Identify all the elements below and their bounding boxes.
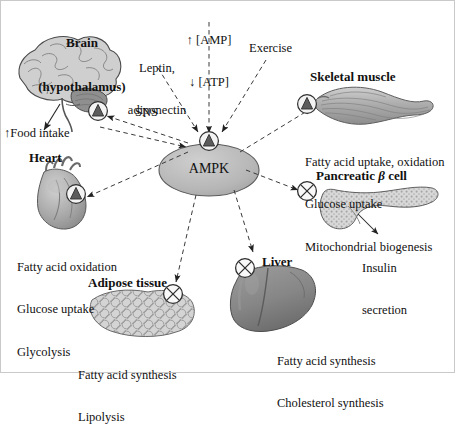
ampk-label: AMPK [179,161,239,177]
heart-title: Heart [29,151,61,166]
muscle-activation-symbol [298,95,317,114]
heart-activation-symbol [67,185,86,204]
exercise-label: Exercise [249,41,292,55]
food-intake-label: ↑Food intake [4,126,70,140]
edge-ampk-to-liver [234,190,253,252]
edge-ampk-to-adipose [176,195,196,282]
liver-effects: Fatty acid synthesis Cholesterol synthes… [277,325,384,425]
sns-label: SNS [135,105,158,119]
liver-inhibition-symbol [236,259,255,278]
skeletal-muscle-illustration [315,87,433,124]
ampk-activation-symbol [200,132,219,151]
liver-title: Liver [262,255,292,270]
skeletal-muscle-title: Skeletal muscle [310,70,396,85]
adipose-title: Adipose tissue [88,276,167,291]
edge-ampk-to-muscle [240,108,312,152]
insulin-secretion-label: Insulin secretion [362,232,407,332]
adipose-effects: Fatty acid synthesis Lipolysis [78,339,177,428]
pancreas-title: Pancreatic β cell [316,169,407,184]
